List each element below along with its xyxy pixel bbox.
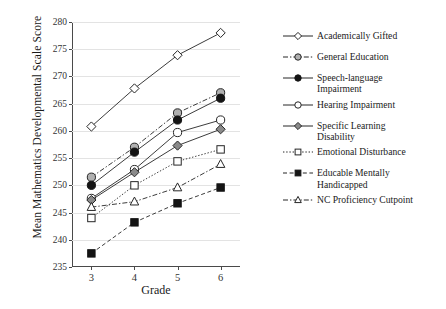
data-point — [131, 219, 138, 226]
x-tick-label: 4 — [132, 272, 137, 283]
legend-item: General Education — [282, 51, 446, 63]
data-point — [217, 146, 224, 153]
data-point — [216, 28, 225, 37]
legend-item: Hearing Impairment — [282, 99, 446, 111]
legend-marker-circle-open-icon — [282, 99, 316, 111]
y-tick-mark — [69, 185, 72, 186]
data-point — [217, 184, 224, 191]
data-point — [174, 158, 181, 165]
x-tick-label: 6 — [218, 272, 223, 283]
legend-label: Hearing Impairment — [316, 99, 446, 110]
y-tick-mark — [69, 267, 72, 268]
x-tick-mark — [134, 267, 135, 270]
series-0 — [87, 28, 225, 131]
y-tick-label: 255 — [53, 153, 67, 163]
x-tick-label: 3 — [89, 272, 94, 283]
legend-label: Speech-language Impairment — [316, 72, 446, 95]
legend-label: Educable Mentally Handicapped — [316, 167, 446, 190]
x-tick-mark — [91, 267, 92, 270]
legend-marker-square-filled-icon — [282, 167, 316, 179]
series-line — [91, 93, 220, 177]
y-tick-label: 235 — [53, 262, 67, 272]
x-tick-mark — [178, 267, 179, 270]
gridline — [72, 185, 240, 186]
series-1 — [87, 89, 224, 182]
legend-marker-circle-gray-icon — [282, 51, 316, 63]
data-point — [173, 128, 181, 136]
legend-item: NC Proficiency Cutpoint — [282, 194, 446, 206]
chart-figure: Mean Mathematics Developmental Scale Sco… — [0, 0, 446, 309]
y-tick-label: 240 — [53, 235, 67, 245]
y-tick-label: 245 — [53, 208, 67, 218]
y-tick-label: 280 — [53, 17, 67, 27]
x-tick-label: 5 — [175, 272, 180, 283]
legend-item: Specific Learning Disability — [282, 120, 446, 143]
data-point — [130, 148, 138, 156]
legend-marker-diamond-gray-icon — [282, 120, 316, 132]
data-point — [131, 182, 138, 189]
legend-marker-circle-filled-icon — [282, 72, 316, 84]
legend-label: General Education — [316, 51, 446, 62]
chart-legend: Academically GiftedGeneral EducationSpee… — [282, 30, 446, 206]
y-tick-label: 265 — [53, 99, 67, 109]
legend-label: Academically Gifted — [316, 30, 446, 41]
data-point — [216, 125, 225, 134]
series-line — [91, 33, 220, 127]
legend-label: NC Proficiency Cutpoint — [316, 194, 446, 205]
gridline — [72, 240, 240, 241]
data-point — [88, 250, 95, 257]
y-tick-label: 275 — [53, 44, 67, 54]
y-tick-label: 270 — [53, 71, 67, 81]
legend-marker-square-open-icon — [282, 146, 316, 158]
data-point — [173, 141, 182, 150]
data-point — [87, 173, 95, 181]
legend-label: Specific Learning Disability — [316, 120, 446, 143]
data-point — [217, 94, 225, 102]
data-point — [216, 160, 224, 168]
y-tick-label: 250 — [53, 180, 67, 190]
data-point — [174, 200, 181, 207]
legend-item: Emotional Disturbance — [282, 146, 446, 158]
data-point — [173, 51, 182, 60]
legend-label: Emotional Disturbance — [316, 146, 446, 157]
plot-area: 280275270265260255250245240235 3456 — [72, 22, 240, 267]
x-axis-title: Grade — [72, 283, 240, 298]
y-tick-mark — [69, 240, 72, 241]
legend-marker-triangle-open-icon — [282, 194, 316, 206]
y-tick-label: 260 — [53, 126, 67, 136]
data-point — [173, 116, 181, 124]
legend-marker-diamond-open-icon — [282, 30, 316, 42]
legend-item: Educable Mentally Handicapped — [282, 167, 446, 190]
data-point — [88, 214, 95, 221]
y-axis-title: Mean Mathematics Developmental Scale Sco… — [30, 12, 44, 242]
legend-item: Academically Gifted — [282, 30, 446, 42]
data-point — [87, 181, 95, 189]
x-tick-mark — [221, 267, 222, 270]
data-point — [217, 116, 225, 124]
legend-item: Speech-language Impairment — [282, 72, 446, 95]
y-tick-mark — [69, 213, 72, 214]
